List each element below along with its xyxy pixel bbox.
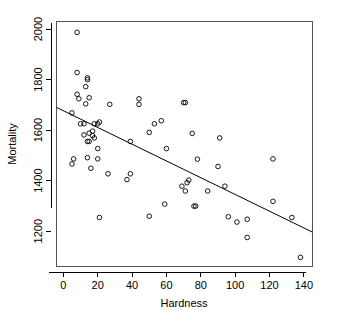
data-point — [75, 30, 80, 35]
x-tick-label: 60 — [160, 279, 172, 291]
data-point — [298, 255, 303, 260]
data-point — [82, 133, 87, 138]
data-point — [183, 189, 188, 194]
data-point — [75, 70, 80, 75]
data-point — [77, 96, 82, 101]
plot-frame-box — [57, 22, 313, 267]
x-tick-label: 80 — [195, 279, 207, 291]
y-tick-label: 1400 — [32, 168, 44, 192]
data-point — [137, 102, 142, 107]
y-tick-label: 1600 — [32, 118, 44, 142]
y-tick-label: 1200 — [32, 219, 44, 243]
data-point — [85, 155, 90, 160]
data-point — [190, 131, 195, 136]
x-tick-label: 0 — [60, 279, 66, 291]
x-axis-tick-labels: 020406080100120140 — [60, 279, 313, 291]
x-tick-label: 120 — [260, 279, 278, 291]
data-point — [137, 96, 142, 101]
data-point — [271, 157, 276, 162]
data-point — [107, 102, 112, 107]
data-point — [271, 199, 276, 204]
data-point — [70, 162, 75, 167]
x-axis-ticks — [63, 272, 304, 277]
data-point — [245, 217, 250, 222]
y-axis-ticks — [46, 29, 51, 231]
data-point — [147, 214, 152, 219]
data-point — [159, 118, 164, 123]
x-tick-label: 20 — [92, 279, 104, 291]
x-axis-title: Hardness — [160, 297, 208, 309]
x-tick-label: 140 — [295, 279, 313, 291]
data-point — [217, 136, 222, 141]
data-point — [180, 184, 185, 189]
data-point — [290, 215, 295, 220]
data-point — [83, 102, 88, 107]
data-point — [87, 95, 92, 100]
data-point — [235, 220, 240, 225]
data-point — [95, 146, 100, 151]
data-point — [216, 164, 221, 169]
data-point — [82, 121, 87, 126]
y-tick-label: 1800 — [32, 67, 44, 91]
data-point — [195, 157, 200, 162]
data-point — [164, 146, 169, 151]
data-point — [89, 166, 94, 171]
data-point — [147, 130, 152, 135]
scatter-plot-figure: 12001400160018002000 020406080100120140 … — [0, 0, 357, 325]
data-point — [106, 172, 111, 177]
y-axis-title: Mortality — [6, 123, 18, 165]
data-point — [75, 92, 80, 97]
data-point-group — [70, 30, 303, 260]
data-point — [205, 189, 210, 194]
data-point — [97, 215, 102, 220]
data-point — [152, 121, 157, 126]
data-point — [83, 84, 88, 89]
y-axis-tick-labels: 12001400160018002000 — [32, 17, 44, 244]
data-point — [71, 157, 76, 162]
data-point — [95, 157, 100, 162]
x-tick-label: 100 — [226, 279, 244, 291]
data-point — [125, 177, 130, 182]
x-tick-label: 40 — [126, 279, 138, 291]
data-point — [128, 172, 133, 177]
plot-canvas: 12001400160018002000 020406080100120140 … — [0, 0, 357, 325]
data-point — [223, 184, 228, 189]
y-tick-label: 2000 — [32, 17, 44, 41]
data-point — [245, 235, 250, 240]
data-point — [226, 214, 231, 219]
data-point — [162, 202, 167, 207]
